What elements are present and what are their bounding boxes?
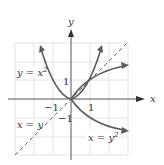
y-axis-label: y — [67, 16, 74, 27]
tick-1-y: 1 — [63, 76, 69, 87]
curve-x-equals-y-squared — [71, 66, 124, 130]
tick-neg1-y: −1 — [58, 113, 73, 124]
x-axis-arrow-icon — [136, 96, 145, 102]
tick-neg1-x: −1 — [44, 102, 59, 113]
tick-1-x: 1 — [88, 102, 94, 113]
x-axis-label: x — [150, 93, 156, 104]
y-axis-arrow-icon — [68, 29, 74, 37]
label-x-equals-y: x = y — [17, 119, 43, 130]
graph: x y −1 1 1 −1 y = x2 x = y x = y2 — [0, 0, 164, 165]
